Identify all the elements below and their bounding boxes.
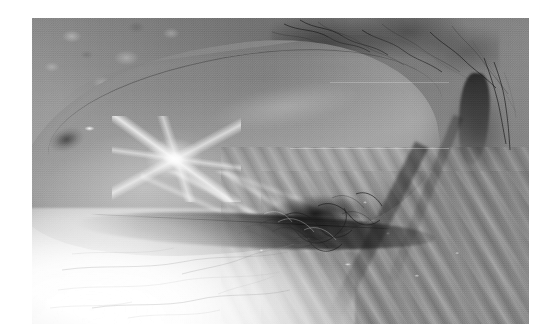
clinical-photograph — [32, 18, 529, 324]
page-canvas — [0, 0, 546, 335]
edge-vignette — [32, 18, 529, 324]
